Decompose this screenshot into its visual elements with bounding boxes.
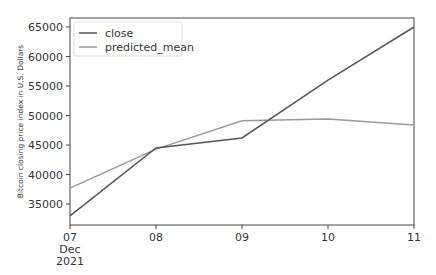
y-tick-label: 60000	[28, 51, 63, 64]
x-tick-label: 11	[407, 231, 421, 244]
y-tick-label: 50000	[28, 110, 63, 123]
line-chart: 3500040000450005000055000600006500007080…	[0, 0, 436, 275]
x-tick-label: 09	[235, 231, 249, 244]
x-year-label: 2021	[56, 255, 84, 268]
x-tick-label: 08	[149, 231, 163, 244]
y-tick-label: 35000	[28, 198, 63, 211]
legend-label: predicted_mean	[105, 41, 194, 54]
legend-label: close	[105, 27, 134, 40]
y-axis-label: Bitcoin closing price index in U.S. Doll…	[16, 45, 25, 199]
y-tick-label: 40000	[28, 169, 63, 182]
y-tick-label: 65000	[28, 21, 63, 34]
x-tick-label: 10	[321, 231, 335, 244]
y-tick-label: 45000	[28, 139, 63, 152]
series-predicted_mean	[70, 119, 414, 188]
y-tick-label: 55000	[28, 80, 63, 93]
